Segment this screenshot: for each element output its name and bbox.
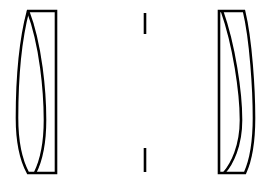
optical-lens-diagram — [0, 0, 269, 184]
lens-diagram-root — [0, 0, 269, 184]
rear-doublet-group — [219, 11, 254, 173]
front-doublet-group — [17, 11, 56, 173]
